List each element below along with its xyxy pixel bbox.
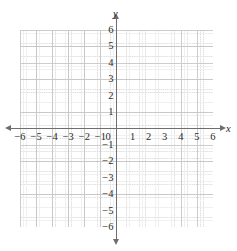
x-tick-label: −5 — [30, 132, 41, 142]
y-tick-label: 6 — [97, 25, 114, 35]
y-tick-label: −4 — [97, 189, 114, 199]
x-tick-label: 5 — [194, 132, 199, 142]
y-tick-label: 1 — [97, 107, 114, 117]
y-axis-down-arrowhead-icon — [113, 239, 119, 245]
y-axis-label: y — [113, 9, 118, 19]
x-tick-label: 6 — [210, 132, 215, 142]
y-tick-label: −2 — [97, 156, 114, 166]
y-tick-label: −3 — [97, 173, 114, 183]
origin-label: 0 — [106, 132, 111, 142]
coordinate-grid-figure: x y −6−5−4−3−2−1123456 654321−1−2−3−4−5−… — [0, 0, 237, 251]
x-tick-label: −2 — [79, 132, 90, 142]
x-axis-label: x — [226, 124, 231, 134]
x-tick-label: 3 — [162, 132, 167, 142]
x-tick-label: −6 — [14, 132, 25, 142]
y-tick-label: −5 — [97, 206, 114, 216]
y-tick-label: 2 — [97, 91, 114, 101]
y-tick-label: −6 — [97, 222, 114, 232]
y-tick-label: 4 — [97, 58, 114, 68]
x-tick-label: −4 — [47, 132, 58, 142]
x-tick-label: 4 — [178, 132, 183, 142]
x-tick-label: 1 — [130, 132, 135, 142]
x-tick-label: −3 — [63, 132, 74, 142]
y-tick-label: 5 — [97, 41, 114, 51]
x-axis-left-arrowhead-icon — [5, 125, 11, 131]
x-axis-line — [8, 128, 222, 129]
y-axis-line — [116, 18, 117, 241]
y-tick-label: 3 — [97, 74, 114, 84]
x-tick-label: 2 — [146, 132, 151, 142]
